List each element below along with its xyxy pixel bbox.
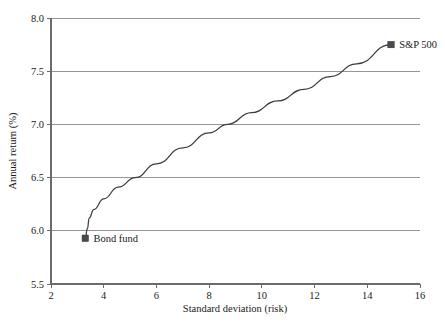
x-axis-title: Standard deviation (risk) xyxy=(183,303,288,315)
x-tick-label-6: 14 xyxy=(362,290,373,301)
y-tick-label-4: 7.5 xyxy=(31,66,44,77)
y-tick-label-2: 6.5 xyxy=(31,172,44,183)
x-tick-label-2: 6 xyxy=(154,290,159,301)
x-tick-label-4: 10 xyxy=(257,290,268,301)
x-tick-label-5: 12 xyxy=(309,290,320,301)
chart-figure: 5.56.06.57.07.58.0 246810121416 Bond fun… xyxy=(0,0,445,329)
y-tick-label-5: 8.0 xyxy=(31,13,44,24)
point-label-s-p-500: S&P 500 xyxy=(399,39,437,50)
y-tick-label-1: 6.0 xyxy=(31,225,44,236)
y-tick-label-3: 7.0 xyxy=(31,119,44,130)
y-axis-title: Annual return (%) xyxy=(7,112,19,189)
x-tick-label-3: 8 xyxy=(207,290,212,301)
marker-bond-fund xyxy=(82,235,88,241)
point-label-bond-fund: Bond fund xyxy=(93,233,138,244)
y-tick-label-0: 5.5 xyxy=(31,279,44,290)
x-tick-label-7: 16 xyxy=(415,290,426,301)
marker-s-p-500 xyxy=(388,41,394,47)
x-tick-label-1: 4 xyxy=(101,290,107,301)
efficient-frontier-chart: 5.56.06.57.07.58.0 246810121416 Bond fun… xyxy=(0,0,445,329)
x-tick-label-0: 2 xyxy=(48,290,53,301)
